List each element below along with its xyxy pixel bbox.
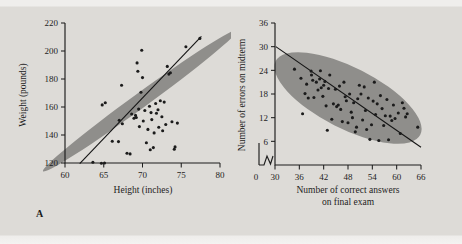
x-tick-label: 54 bbox=[368, 172, 378, 182]
data-point bbox=[348, 92, 351, 95]
data-point bbox=[361, 118, 364, 121]
data-point bbox=[393, 117, 396, 120]
origin-label: 0 bbox=[254, 172, 259, 182]
data-point bbox=[310, 74, 313, 77]
data-point bbox=[120, 84, 123, 87]
data-point bbox=[376, 102, 379, 105]
data-point bbox=[379, 94, 382, 97]
y-tick-label: 12 bbox=[259, 113, 268, 123]
data-point bbox=[111, 140, 114, 143]
data-point bbox=[339, 108, 342, 111]
data-point bbox=[312, 96, 315, 99]
data-point bbox=[146, 128, 149, 131]
data-point bbox=[351, 116, 354, 119]
data-point bbox=[344, 95, 347, 98]
data-point bbox=[163, 101, 166, 104]
data-point bbox=[350, 111, 353, 114]
data-point bbox=[341, 120, 344, 123]
y-tick-label: 120 bbox=[45, 158, 59, 168]
data-point bbox=[155, 112, 158, 115]
data-point bbox=[166, 65, 169, 68]
data-point bbox=[91, 161, 94, 164]
data-point bbox=[399, 132, 402, 135]
data-point bbox=[387, 138, 390, 141]
data-point bbox=[404, 115, 407, 118]
data-point bbox=[358, 84, 361, 87]
confidence-ellipse bbox=[39, 24, 231, 177]
x-tick-label: 60 bbox=[392, 172, 402, 182]
x-tick-label: 65 bbox=[99, 170, 109, 180]
data-point bbox=[153, 131, 156, 134]
data-point bbox=[355, 126, 358, 129]
data-point bbox=[320, 86, 323, 89]
data-point bbox=[346, 121, 349, 124]
data-point bbox=[141, 76, 144, 79]
data-point bbox=[334, 88, 337, 91]
x-axis-title: Height (inches) bbox=[114, 185, 173, 196]
data-point bbox=[401, 101, 404, 104]
data-point bbox=[332, 102, 335, 105]
data-point bbox=[307, 96, 310, 99]
data-point bbox=[322, 84, 325, 87]
data-point bbox=[170, 120, 173, 123]
panel-a: 1201401601802002206065707580Weight (poun… bbox=[0, 0, 231, 244]
data-point bbox=[323, 80, 326, 83]
data-point bbox=[370, 123, 373, 126]
data-point bbox=[138, 125, 141, 128]
data-point bbox=[352, 101, 355, 104]
data-point bbox=[136, 70, 139, 73]
panel-b: 61218243036303642485460660Number of erro… bbox=[231, 0, 462, 244]
data-point bbox=[293, 68, 296, 71]
data-point bbox=[325, 104, 328, 107]
x-tick-label: 48 bbox=[344, 172, 354, 182]
x-tick-label: 30 bbox=[271, 172, 281, 182]
x-axis-break bbox=[259, 156, 273, 165]
data-point bbox=[345, 99, 348, 102]
data-point bbox=[100, 162, 103, 165]
y-tick-label: 160 bbox=[45, 102, 59, 112]
data-point bbox=[129, 152, 132, 155]
panel-a-tag: A bbox=[36, 208, 44, 219]
y-tick-label: 220 bbox=[45, 18, 59, 28]
data-point bbox=[135, 116, 138, 119]
data-point bbox=[140, 49, 143, 52]
data-point bbox=[299, 77, 302, 80]
data-point bbox=[303, 92, 306, 95]
data-point bbox=[319, 69, 322, 72]
data-point bbox=[156, 108, 159, 111]
data-point bbox=[397, 111, 400, 114]
data-point bbox=[117, 140, 120, 143]
data-point bbox=[356, 97, 359, 100]
data-point bbox=[118, 119, 121, 122]
x-tick-label: 60 bbox=[61, 170, 71, 180]
y-axis-title: Weight (pounds) bbox=[18, 63, 29, 126]
data-point bbox=[389, 115, 392, 118]
data-point bbox=[184, 45, 187, 48]
regression-line bbox=[80, 36, 202, 163]
data-point bbox=[337, 103, 340, 106]
data-point bbox=[130, 112, 133, 115]
data-point bbox=[125, 152, 128, 155]
x-tick-label: 66 bbox=[417, 172, 427, 182]
data-point bbox=[367, 96, 370, 99]
y-tick-label: 180 bbox=[45, 74, 59, 84]
data-point bbox=[392, 103, 395, 106]
data-point bbox=[152, 146, 155, 149]
x-axis-title-line1: Number of correct answers bbox=[296, 185, 399, 195]
data-point bbox=[390, 119, 393, 122]
data-point bbox=[154, 102, 157, 105]
data-point bbox=[139, 91, 142, 94]
data-point bbox=[342, 81, 345, 84]
data-point bbox=[406, 112, 409, 115]
data-point bbox=[121, 122, 124, 125]
data-point bbox=[149, 111, 152, 114]
data-point bbox=[416, 126, 419, 129]
data-point bbox=[176, 122, 179, 125]
y-axis-title: Number of errors on midterm bbox=[237, 38, 247, 151]
data-point bbox=[311, 79, 314, 82]
data-point bbox=[305, 83, 308, 86]
x-tick-label: 75 bbox=[177, 170, 187, 180]
data-point bbox=[160, 115, 163, 118]
data-point bbox=[368, 138, 371, 141]
data-point bbox=[103, 161, 106, 164]
